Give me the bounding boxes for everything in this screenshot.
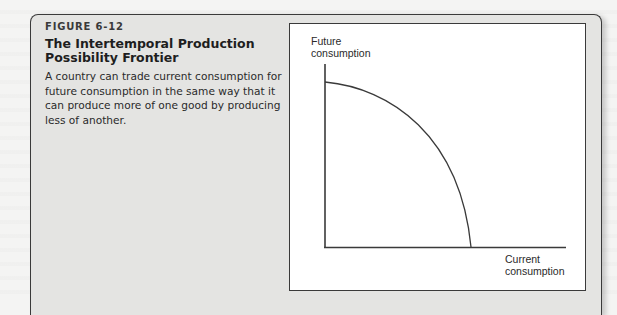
ppf-curve — [325, 82, 471, 247]
y-axis-label: Future consumption — [311, 35, 381, 59]
x-axis-label: Current consumption — [505, 253, 575, 277]
